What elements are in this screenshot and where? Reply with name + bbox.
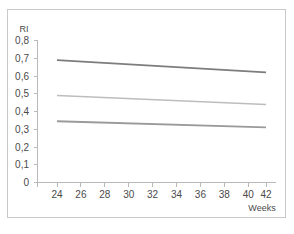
chart-figure: RI 0,8 0,7 0,6 0,5 0,4 0,3 0,2 0,1 0 [0, 0, 294, 234]
x-tick-label-42: 42 [260, 189, 272, 200]
x-tick-label-36: 36 [195, 189, 207, 200]
y-tick-label-0.6: 0,6 [15, 71, 29, 82]
series-line-median-reference-line [57, 96, 266, 105]
x-tick-label-26: 26 [75, 189, 87, 200]
x-tick-label-34: 34 [171, 189, 183, 200]
series-line-lower-reference-line [57, 121, 266, 127]
x-tick-label-32: 32 [147, 189, 159, 200]
x-tick-label-40: 40 [243, 189, 255, 200]
x-tick-label-38: 38 [219, 189, 231, 200]
y-tick-label-0.1: 0,1 [15, 159, 29, 170]
x-tick-label-28: 28 [99, 189, 111, 200]
x-tick-label-24: 24 [51, 189, 63, 200]
x-axis-title: Weeks [248, 203, 276, 213]
y-tick-label-0.7: 0,7 [15, 53, 29, 64]
x-tick-label-30: 30 [123, 189, 135, 200]
series-line-upper-reference-line [57, 60, 266, 72]
y-tick-label-0: 0 [23, 177, 29, 188]
y-tick-label-0.4: 0,4 [15, 106, 29, 117]
chart-canvas: RI 0,8 0,7 0,6 0,5 0,4 0,3 0,2 0,1 0 [0, 0, 294, 234]
y-tick-label-0.5: 0,5 [15, 88, 29, 99]
y-tick-label-0.3: 0,3 [15, 124, 29, 135]
y-tick-label-0.8: 0,8 [15, 35, 29, 46]
y-tick-label-0.2: 0,2 [15, 142, 29, 153]
y-axis-title: RI [20, 24, 29, 34]
